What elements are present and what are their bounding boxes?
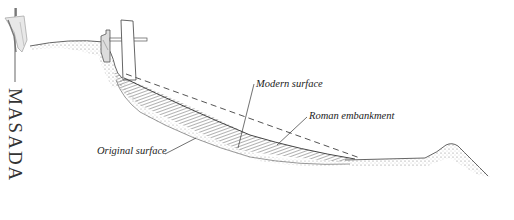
original-surface-label: Original surface (97, 145, 167, 156)
cross-section-diagram (0, 0, 514, 220)
roman-embankment-label: Roman embankment (309, 110, 394, 121)
original-surface-leader (165, 138, 196, 154)
masada-plateau (30, 41, 128, 88)
roman-embankment-leader (277, 117, 307, 145)
ground-profile (345, 144, 490, 177)
modern-surface-label: Modern surface (256, 78, 323, 89)
